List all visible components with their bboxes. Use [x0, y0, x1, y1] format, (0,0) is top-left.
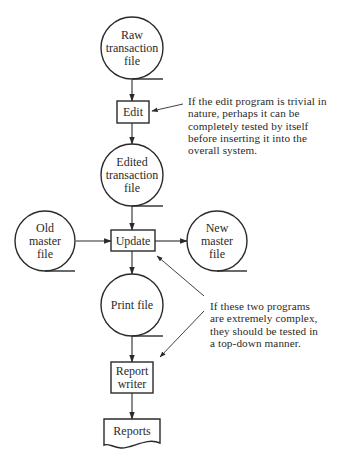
report-writer-label: writer	[118, 377, 147, 391]
reports-node: Reports	[104, 419, 160, 448]
annotation-arrow	[152, 104, 183, 111]
edit-program-note: If the edit program is trivial in nature…	[188, 95, 327, 156]
raw-label: transaction	[106, 41, 159, 55]
new-master-label: file	[209, 247, 225, 261]
flow-nodes: RawtransactionfileEditEditedtransactionf…	[15, 17, 247, 448]
edit-node: Edit	[117, 101, 149, 123]
update-label: Update	[116, 234, 151, 248]
edited-label: transaction	[106, 168, 159, 182]
reports-label: Reports	[113, 424, 151, 438]
edited-label: file	[124, 181, 140, 195]
raw-label: Raw	[121, 28, 143, 42]
update-node: Update	[111, 230, 155, 251]
annotation-arrow	[160, 311, 204, 357]
new-master-label: master	[201, 234, 233, 248]
raw-node: Rawtransactionfile	[101, 17, 163, 79]
edit-label: Edit	[123, 105, 144, 119]
old-master-label: Old	[36, 221, 54, 235]
old-master-label: master	[29, 234, 61, 248]
annotation-arrow	[157, 256, 204, 296]
new-master-node: Newmasterfile	[187, 211, 247, 271]
old-master-node: Oldmasterfile	[15, 211, 75, 271]
new-master-label: New	[206, 221, 229, 235]
report-writer-node: Reportwriter	[111, 362, 153, 393]
raw-label: file	[124, 54, 140, 68]
flow-diagram: RawtransactionfileEditEditedtransactionf…	[0, 0, 339, 465]
print-label: Print file	[111, 298, 153, 312]
edited-label: Edited	[116, 155, 147, 169]
old-master-label: file	[37, 247, 53, 261]
report-writer-label: Report	[116, 364, 149, 378]
edited-node: Editedtransactionfile	[101, 144, 163, 206]
print-node: Print file	[101, 274, 163, 336]
complex-programs-note: If these two programs are extremely comp…	[210, 300, 318, 349]
